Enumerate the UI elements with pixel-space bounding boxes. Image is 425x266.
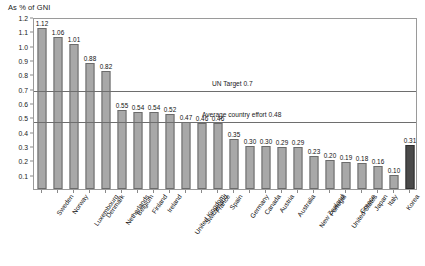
bar[interactable] [310, 156, 319, 189]
y-tick-label: 0.6 [19, 101, 28, 108]
bar-value-label: 0.29 [276, 139, 288, 146]
reference-line-un-target [34, 91, 416, 92]
bar[interactable] [374, 166, 383, 189]
bar[interactable] [262, 146, 271, 189]
bar-value-label: 0.88 [84, 55, 96, 62]
x-tick-label: Sweden [55, 193, 74, 217]
bars-layer: 1.121.061.010.880.820.550.540.540.520.47… [34, 19, 416, 189]
bar[interactable] [214, 123, 223, 189]
bar[interactable] [38, 28, 47, 189]
bar-group: 0.18 [354, 19, 370, 189]
y-tick-label: 1.2 [19, 15, 28, 22]
bar-group: 0.52 [162, 19, 178, 189]
y-tick-label: 0.9 [19, 58, 28, 65]
bar[interactable] [358, 163, 367, 189]
bar[interactable] [390, 175, 399, 189]
y-tick-label: 0.8 [19, 72, 28, 79]
reference-line-average-country-effort [34, 122, 416, 123]
bar[interactable] [246, 146, 255, 189]
bar-group: 0.20 [322, 19, 338, 189]
bar[interactable] [70, 44, 79, 189]
bar-value-label: 1.06 [52, 29, 64, 36]
y-tick-label: 0.2 [19, 158, 28, 165]
bar-value-label: 0.54 [132, 104, 144, 111]
bar-value-label: 0.30 [244, 138, 256, 145]
bar-value-label: 0.20 [324, 152, 336, 159]
bar-group: 0.23 [306, 19, 322, 189]
bar[interactable] [166, 114, 175, 189]
y-axis: 1.21.11.00.90.80.70.60.50.40.30.20.1 [0, 18, 33, 190]
bar-value-label: 0.16 [372, 158, 384, 165]
bar[interactable] [150, 112, 159, 189]
bar[interactable] [134, 112, 143, 189]
bar-group: 1.12 [34, 19, 50, 189]
bar[interactable] [294, 147, 303, 189]
bar[interactable] [342, 162, 351, 189]
chart-container: As % of GNI 1.21.11.00.90.80.70.60.50.40… [0, 0, 425, 266]
bar-value-label: 0.47 [180, 114, 192, 121]
bar-group: 0.19 [338, 19, 354, 189]
reference-label-un-target: UN Target 0.7 [212, 80, 253, 87]
bar-value-label: 0.35 [228, 131, 240, 138]
bar-value-label: 0.19 [340, 154, 352, 161]
bar-group: 0.29 [274, 19, 290, 189]
bar-group: 0.55 [114, 19, 130, 189]
x-axis-labels: SwedenNorwayLuxembourgDenmarkNetherlands… [33, 193, 417, 266]
bar-value-label: 0.31 [404, 137, 416, 144]
bar-group: 0.46 [210, 19, 226, 189]
bar-value-label: 0.30 [260, 138, 272, 145]
bar-value-label: 0.82 [100, 63, 112, 70]
bar[interactable] [326, 160, 335, 189]
y-tick-label: 0.1 [19, 172, 28, 179]
bar-group: 0.31 [402, 19, 418, 189]
y-tick-label: 0.3 [19, 144, 28, 151]
bar-group: 1.06 [50, 19, 66, 189]
bar-group: 0.29 [290, 19, 306, 189]
y-tick-label: 0.4 [19, 129, 28, 136]
bar-group: 0.54 [130, 19, 146, 189]
bar-value-label: 1.01 [68, 36, 80, 43]
bar[interactable] [278, 147, 287, 189]
x-tick-label: Korea [405, 193, 421, 211]
y-axis-title: As % of GNI [8, 3, 50, 12]
bar-value-label: 0.23 [308, 148, 320, 155]
y-tick-label: 1.1 [19, 29, 28, 36]
bar-value-label: 0.29 [292, 139, 304, 146]
bar-group: 0.35 [226, 19, 242, 189]
bar[interactable] [86, 63, 95, 189]
bar-group: 0.16 [370, 19, 386, 189]
bar-group: 0.88 [82, 19, 98, 189]
bar-value-label: 1.12 [36, 20, 48, 27]
bar[interactable] [102, 71, 111, 189]
bar-group: 0.30 [258, 19, 274, 189]
bar-group: 0.30 [242, 19, 258, 189]
bar[interactable] [230, 139, 239, 189]
y-tick-label: 1.0 [19, 43, 28, 50]
bar-group: 0.47 [178, 19, 194, 189]
bar-group: 1.01 [66, 19, 82, 189]
bar-value-label: 0.18 [356, 155, 368, 162]
reference-label-average-country-effort: Average country effort 0.48 [202, 111, 281, 118]
bar-value-label: 0.10 [388, 167, 400, 174]
bar[interactable] [406, 145, 415, 189]
bar[interactable] [54, 37, 63, 189]
bar-value-label: 0.54 [148, 104, 160, 111]
bar-group: 0.82 [98, 19, 114, 189]
bar-value-label: 0.55 [116, 102, 128, 109]
x-tick-label: Italy [386, 193, 399, 207]
y-tick-label: 0.7 [19, 86, 28, 93]
x-tick-label: Australia [296, 193, 316, 218]
bar-group: 0.46 [194, 19, 210, 189]
bar-group: 0.54 [146, 19, 162, 189]
y-tick-label: 0.5 [19, 115, 28, 122]
bar[interactable] [182, 122, 191, 189]
bar-group: 0.10 [386, 19, 402, 189]
plot-area: 1.121.061.010.880.820.550.540.540.520.47… [33, 18, 417, 190]
bar[interactable] [198, 123, 207, 189]
bar-value-label: 0.52 [164, 106, 176, 113]
